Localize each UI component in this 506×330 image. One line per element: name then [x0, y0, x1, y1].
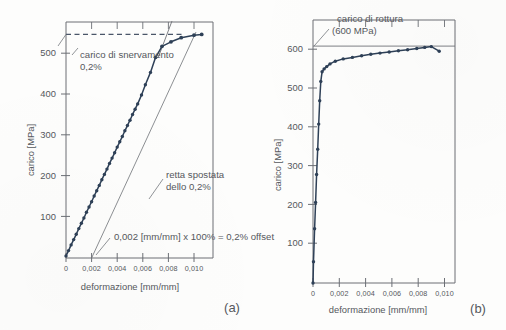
x-tick-label: 0,002 — [82, 264, 101, 273]
x-tick-label: 0 — [311, 289, 315, 298]
panel-letter-b: (b) — [470, 301, 486, 316]
panel-b-axes — [313, 20, 455, 283]
y-tick-label: 500 — [287, 82, 303, 93]
y-tick-label: 200 — [40, 170, 56, 181]
offset-annotation-line2: dello 0,2% — [166, 181, 211, 192]
panel-a-x-tick-labels: 0 0,002 0,004 0,006 0,008 0,010 — [64, 264, 203, 273]
x-tick-label: 0,006 — [383, 289, 402, 298]
yield-annotation-line2: 0,2% — [80, 61, 102, 72]
data-points-b — [311, 45, 441, 285]
panel-b-x-ticks — [313, 20, 445, 287]
offset-annotation-line1: retta spostata — [166, 169, 225, 180]
panel-letter-a: (a) — [224, 300, 240, 315]
x-axis-title-b: deformazione [mm/mm] — [329, 304, 427, 315]
uts-annotation-line2: (600 MPa) — [332, 25, 377, 36]
stress-strain-curve-b — [313, 47, 439, 283]
uts-leader-line — [314, 29, 329, 46]
y-tick-label: 100 — [287, 237, 303, 248]
panel-b-y-tick-labels: 100 200 300 400 500 600 — [287, 43, 303, 248]
panel-b-x-tick-labels: 0 0,002 0,004 0,006 0,008 0,010 — [311, 289, 454, 298]
panel-b-svg: 100 200 300 400 500 600 0 0,002 0,004 0,… — [253, 0, 506, 330]
panel-a-svg: 100 200 300 400 500 0 0,002 0,004 0,006 … — [0, 0, 253, 330]
y-tick-label: 300 — [287, 160, 303, 171]
y-axis-title-b: carico [MPa] — [272, 139, 283, 191]
yield-leader-line — [58, 34, 66, 46]
yield-annotation-line1: carico di snervamento — [80, 49, 174, 60]
y-tick-label: 300 — [40, 129, 56, 140]
x-tick-label: 0,004 — [108, 264, 127, 273]
x-tick-label: 0,006 — [134, 264, 153, 273]
y-tick-label: 400 — [40, 88, 56, 99]
offset-formula-annotation: 0,002 [mm/mm] x 100% = 0,2% offset — [114, 231, 274, 242]
figure-root: 100 200 300 400 500 0 0,002 0,004 0,006 … — [0, 0, 506, 330]
x-tick-label: 0,008 — [159, 264, 178, 273]
offset-leader-line — [149, 179, 163, 199]
y-tick-label: 500 — [40, 47, 56, 58]
y-tick-label: 100 — [40, 211, 56, 222]
x-tick-label: 0,008 — [409, 289, 428, 298]
y-tick-label: 200 — [287, 199, 303, 210]
yield-leader-hook — [72, 48, 78, 55]
panel-a-y-tick-labels: 100 200 300 400 500 — [40, 47, 56, 221]
y-axis-title-a: carico [MPa] — [25, 124, 36, 176]
x-tick-label: 0,004 — [356, 289, 375, 298]
x-axis-title-a: deformazione [mm/mm] — [81, 281, 179, 292]
x-tick-label: 0,002 — [330, 289, 349, 298]
formula-leader-line — [96, 238, 110, 255]
x-tick-label: 0,010 — [185, 264, 204, 273]
offset-parallel-line — [92, 32, 196, 258]
x-tick-label: 0,010 — [435, 289, 454, 298]
chart-panel-a: 100 200 300 400 500 0 0,002 0,004 0,006 … — [0, 0, 253, 330]
chart-panel-b: 100 200 300 400 500 600 0 0,002 0,004 0,… — [253, 0, 506, 330]
x-tick-label: 0 — [64, 264, 68, 273]
y-tick-label: 600 — [287, 43, 303, 54]
y-tick-label: 400 — [287, 121, 303, 132]
uts-annotation-line1: carico di rottura — [337, 13, 404, 24]
